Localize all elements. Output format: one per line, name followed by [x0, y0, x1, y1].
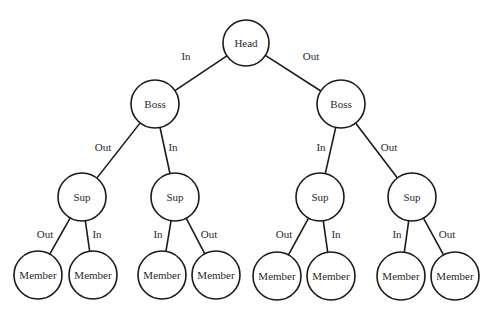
node-label: Member — [197, 269, 235, 281]
edge-label-out: Out — [381, 141, 398, 153]
node-label: Sup — [73, 191, 91, 203]
node-label: Boss — [144, 98, 165, 110]
edge-label-out: Out — [276, 228, 293, 240]
tree-edges — [50, 55, 444, 254]
node-label: Sup — [166, 191, 184, 203]
node-label: Head — [234, 37, 258, 49]
edge-label-in: In — [392, 228, 402, 240]
node-label: Member — [143, 269, 181, 281]
node-member: Member — [14, 251, 62, 299]
node-label: Member — [19, 269, 57, 281]
edge-label-out: Out — [95, 141, 112, 153]
edge-label-out: Out — [439, 228, 456, 240]
node-member: Member — [138, 251, 186, 299]
edge-label-in: In — [168, 141, 178, 153]
node-boss: Boss — [131, 80, 179, 128]
node-label: Member — [312, 270, 350, 282]
node-sup: Sup — [151, 173, 199, 221]
edge-sup3-m6 — [323, 221, 327, 252]
edge-label-in: In — [92, 228, 102, 240]
node-label: Sup — [311, 191, 329, 203]
node-sup: Sup — [388, 173, 436, 221]
node-sup: Sup — [58, 173, 106, 221]
hierarchy-tree-diagram: InOutOutInInOutOutInInOutOutInInOut Head… — [0, 0, 493, 317]
node-sup: Sup — [296, 173, 344, 221]
edge-sup1-m2 — [85, 221, 89, 251]
node-label: Member — [436, 270, 474, 282]
node-head: Head — [223, 20, 269, 66]
node-boss: Boss — [317, 80, 365, 128]
node-label: Member — [258, 270, 296, 282]
edge-sup4-m7 — [404, 221, 408, 252]
edge-label-in: In — [181, 50, 191, 62]
edge-sup2-m3 — [166, 221, 171, 252]
node-label: Member — [382, 270, 420, 282]
edge-boss2-sup3 — [325, 127, 335, 173]
node-label: Member — [74, 269, 112, 281]
edge-label-in: In — [331, 228, 341, 240]
node-member: Member — [253, 252, 301, 300]
edge-label-out: Out — [201, 228, 218, 240]
edge-label-in: In — [153, 228, 163, 240]
node-member: Member — [307, 252, 355, 300]
node-label: Sup — [403, 191, 421, 203]
node-member: Member — [69, 251, 117, 299]
node-member: Member — [377, 252, 425, 300]
node-label: Boss — [330, 98, 351, 110]
edge-label-in: In — [316, 141, 326, 153]
node-member: Member — [192, 251, 240, 299]
edge-label-out: Out — [303, 50, 320, 62]
node-member: Member — [431, 252, 479, 300]
tree-nodes: HeadBossBossSupSupSupSupMemberMemberMemb… — [14, 20, 479, 300]
edge-label-out: Out — [37, 228, 54, 240]
